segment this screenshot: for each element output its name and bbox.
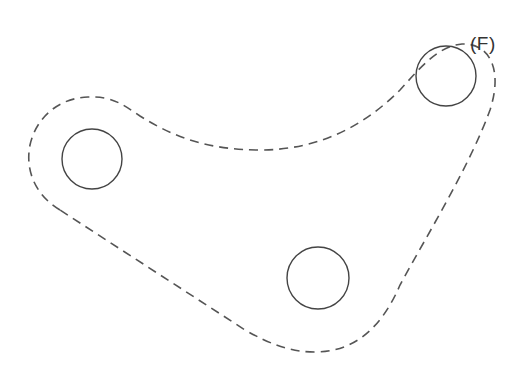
figure-label: (F) xyxy=(470,33,496,55)
bracket-outline-dashed xyxy=(29,44,495,352)
bottom-hole xyxy=(287,247,349,309)
bracket-diagram xyxy=(0,0,525,369)
right-hole xyxy=(416,46,476,106)
left-hole xyxy=(62,129,122,189)
